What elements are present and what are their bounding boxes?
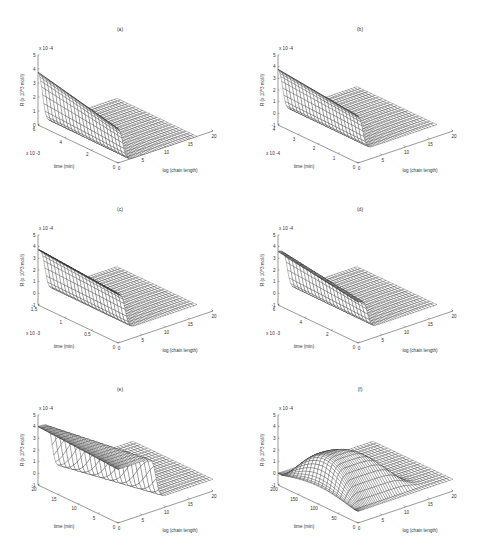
y-tick-label: 0 xyxy=(353,345,356,350)
x-tick-label: 10 xyxy=(404,330,410,335)
y-multiplier: x 10 -4 xyxy=(266,151,280,156)
z-axis-label: R (x 10^3 mol/l) xyxy=(260,254,265,286)
z-tick-label: 2 xyxy=(33,448,36,453)
x-tick-label: 15 xyxy=(428,502,434,507)
y-tick-label: 4 xyxy=(59,140,62,145)
x-tick-label: 5 xyxy=(141,338,144,343)
surface-mesh xyxy=(38,72,197,159)
z-tick-label: 0 xyxy=(273,471,276,476)
z-tick-label: 1 xyxy=(273,279,276,284)
y-axis-label: time (min) xyxy=(294,164,315,169)
y-tick-label: 0 xyxy=(113,165,116,170)
z-tick-label: 0 xyxy=(273,111,276,116)
panel-title: (d) xyxy=(357,206,363,212)
surface-mesh xyxy=(278,441,453,511)
z-tick-label: 0 xyxy=(273,291,276,296)
z-tick-label: 2 xyxy=(33,95,36,100)
panel-a: (a)051015200246012345x 10 -4x 10 -3log (… xyxy=(0,0,240,180)
z-tick-label: 1 xyxy=(33,109,36,114)
y-axis-label: time (min) xyxy=(54,164,75,169)
panel-f: (f)05101520050100150200-1012345x 10 -4lo… xyxy=(240,360,480,540)
x-tick-label: 0 xyxy=(358,526,361,531)
y-tick-label: 10 xyxy=(71,506,77,511)
z-axis-label: R (x 10^3 mol/l) xyxy=(260,74,265,106)
y-tick-label: 5 xyxy=(93,516,96,521)
surface-mesh xyxy=(278,251,437,325)
z-tick-label: 5 xyxy=(273,413,276,418)
panel-title: (b) xyxy=(357,26,363,32)
x-tick-label: 5 xyxy=(141,518,144,523)
x-tick-label: 20 xyxy=(451,134,457,139)
z-multiplier: x 10 -4 xyxy=(279,46,293,51)
y-tick-label: 200 xyxy=(270,487,278,492)
x-tick-label: 5 xyxy=(141,158,144,163)
y-tick-label: 1 xyxy=(333,156,336,161)
y-tick-label: 0 xyxy=(113,525,116,530)
panel-e: (e)0510152005101520-1012345x 10 -4log (c… xyxy=(0,360,240,540)
z-tick-label: 4 xyxy=(33,424,36,429)
panel-title: (c) xyxy=(117,206,123,212)
panel-title: (e) xyxy=(117,386,123,392)
y-multiplier: x 10 -3 xyxy=(266,331,280,336)
y-tick-label: 15 xyxy=(51,497,57,502)
y-tick-label: 2 xyxy=(86,152,89,157)
y-tick-label: 6 xyxy=(33,127,36,132)
z-tick-label: -1 xyxy=(31,483,36,488)
x-tick-label: 0 xyxy=(118,526,121,531)
x-tick-label: 5 xyxy=(381,158,384,163)
x-tick-label: 10 xyxy=(404,150,410,155)
z-tick-label: -1 xyxy=(271,483,276,488)
y-tick-label: 0.5 xyxy=(84,332,91,337)
z-tick-label: 1 xyxy=(273,459,276,464)
z-tick-label: 3 xyxy=(33,256,36,261)
x-tick-label: 0 xyxy=(118,346,121,351)
x-axis-label: log (chain length) xyxy=(402,348,438,353)
z-tick-label: 3 xyxy=(273,76,276,81)
y-axis-label: time (min) xyxy=(294,344,315,349)
z-tick-label: 3 xyxy=(273,436,276,441)
y-tick-label: 4 xyxy=(299,320,302,325)
z-tick-label: 0 xyxy=(33,123,36,128)
surface-mesh xyxy=(38,425,213,496)
x-tick-label: 0 xyxy=(118,166,121,171)
z-axis-label: R (x 10^3 mol/l) xyxy=(20,254,25,286)
z-tick-label: 4 xyxy=(33,67,36,72)
z-tick-label: 2 xyxy=(33,268,36,273)
z-tick-label: 2 xyxy=(273,88,276,93)
x-tick-label: 15 xyxy=(188,502,194,507)
z-multiplier: x 10 -4 xyxy=(39,406,53,411)
z-tick-label: -1 xyxy=(271,303,276,308)
x-axis-label: log (chain length) xyxy=(402,528,438,533)
y-multiplier: x 10 -3 xyxy=(26,151,40,156)
x-tick-label: 20 xyxy=(211,494,217,499)
y-tick-label: 1.5 xyxy=(31,307,38,312)
z-multiplier: x 10 -4 xyxy=(39,46,53,51)
y-tick-label: 150 xyxy=(290,497,298,502)
y-axis-label: time (min) xyxy=(54,344,75,349)
panel-c: (c)0510152000.511.5-1012345x 10 -4x 10 -… xyxy=(0,180,240,360)
x-tick-label: 15 xyxy=(188,322,194,327)
z-tick-label: 1 xyxy=(273,99,276,104)
x-tick-label: 10 xyxy=(164,150,170,155)
z-tick-label: 5 xyxy=(33,413,36,418)
x-tick-label: 15 xyxy=(428,142,434,147)
panel-title: (f) xyxy=(358,386,363,392)
x-tick-label: 20 xyxy=(451,494,457,499)
z-axis-label: R (x 10^3 mol/l) xyxy=(20,74,25,106)
x-tick-label: 15 xyxy=(188,142,194,147)
x-axis-label: log (chain length) xyxy=(162,348,198,353)
x-axis-label: log (chain length) xyxy=(162,168,198,173)
z-tick-label: 2 xyxy=(273,448,276,453)
y-tick-label: 2 xyxy=(326,332,329,337)
x-tick-label: 10 xyxy=(164,330,170,335)
y-tick-label: 50 xyxy=(331,516,337,521)
z-tick-label: 4 xyxy=(273,64,276,69)
y-tick-label: 0 xyxy=(353,165,356,170)
x-tick-label: 10 xyxy=(164,510,170,515)
y-tick-label: 0 xyxy=(113,345,116,350)
y-tick-label: 3 xyxy=(293,137,296,142)
y-tick-label: 2 xyxy=(313,146,316,151)
surface-mesh xyxy=(278,69,437,147)
x-axis-label: log (chain length) xyxy=(162,528,198,533)
z-multiplier: x 10 -4 xyxy=(39,226,53,231)
